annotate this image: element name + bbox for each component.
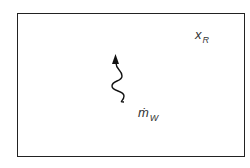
label-x-r-main: x [195, 27, 202, 42]
label-m-dot-w-sub: W [150, 113, 159, 123]
label-x-r: xR [195, 28, 209, 41]
label-m-dot-w-main: ṁ [138, 105, 149, 120]
label-m-dot-w: ṁW [138, 106, 158, 119]
wavy-arrow-icon [0, 0, 250, 168]
label-x-r-sub: R [203, 35, 210, 45]
